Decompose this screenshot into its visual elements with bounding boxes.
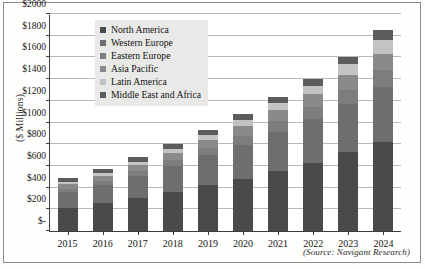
- legend-item[interactable]: North America: [100, 24, 201, 36]
- y-tick-label: $400: [27, 173, 46, 183]
- bar-slot: 2020: [225, 15, 260, 231]
- bar-segment: [233, 126, 253, 136]
- x-tick-label: 2018: [163, 238, 183, 249]
- y-tick-label: $600: [27, 151, 46, 161]
- x-tick-label: 2017: [128, 238, 148, 249]
- bar-segment: [198, 148, 218, 155]
- bar-segment: [268, 121, 288, 131]
- y-tick-label: $1600: [22, 42, 46, 52]
- stacked-bar[interactable]: [93, 169, 113, 231]
- y-tick-label: $200: [27, 194, 46, 204]
- legend-item-label: North America: [111, 24, 169, 35]
- x-tick-mark: [68, 231, 69, 235]
- legend-item[interactable]: Middle East and Africa: [100, 89, 201, 101]
- legend-item[interactable]: Latin America: [100, 76, 201, 88]
- bar-slot: 2021: [261, 15, 296, 231]
- bar-segment: [338, 64, 358, 75]
- bar-segment: [373, 70, 393, 87]
- legend-item-label: Asia Pacific: [111, 63, 158, 74]
- bar-segment: [198, 140, 218, 148]
- bar-segment: [373, 142, 393, 232]
- bar-segment: [58, 208, 78, 231]
- legend-swatch-icon: [100, 40, 106, 46]
- y-tick-label: $1800: [22, 21, 46, 31]
- x-tick-mark: [278, 231, 279, 235]
- gridline: [50, 13, 401, 14]
- stacked-bar[interactable]: [58, 178, 78, 231]
- bar-segment: [303, 94, 323, 107]
- legend-swatch-icon: [100, 66, 106, 72]
- bar-segment: [163, 166, 183, 192]
- legend-item[interactable]: Western Europe: [100, 37, 201, 49]
- legend-item-label: Latin America: [111, 76, 167, 87]
- x-tick-mark: [208, 231, 209, 235]
- x-tick-label: 2019: [198, 238, 218, 249]
- bar-segment: [338, 152, 358, 231]
- source-note: (Source: Navigant Research): [303, 247, 410, 257]
- bar-segment: [233, 136, 253, 145]
- x-tick-label: 2015: [58, 238, 78, 249]
- bar-segment: [338, 104, 358, 152]
- bar-segment: [128, 176, 148, 198]
- y-tick-label: $-: [38, 216, 46, 226]
- legend-item[interactable]: Eastern Europe: [100, 50, 201, 62]
- stacked-bar[interactable]: [373, 30, 393, 231]
- legend-item[interactable]: Asia Pacific: [100, 63, 201, 75]
- y-tick-label: $1000: [22, 108, 46, 118]
- bar-segment: [338, 90, 358, 104]
- x-tick-mark: [243, 231, 244, 235]
- bar-segment: [93, 203, 113, 231]
- legend-swatch-icon: [100, 27, 106, 33]
- bar-slot: 2022: [296, 15, 331, 231]
- bar-segment: [58, 192, 78, 208]
- legend-item-label: Eastern Europe: [111, 50, 170, 61]
- bar-segment: [163, 153, 183, 160]
- y-tick-label: $1400: [22, 64, 46, 74]
- bar-segment: [268, 103, 288, 110]
- stacked-bar[interactable]: [198, 130, 218, 231]
- bar-segment: [373, 54, 393, 71]
- bar-segment: [128, 198, 148, 231]
- y-tick-label: $800: [27, 129, 46, 139]
- bar-segment: [233, 145, 253, 179]
- x-tick-mark: [383, 231, 384, 235]
- stacked-bar[interactable]: [163, 144, 183, 231]
- y-tick-label: $2000: [22, 0, 46, 9]
- bar-segment: [373, 40, 393, 54]
- bar-slot: 2024: [366, 15, 401, 231]
- x-tick-mark: [138, 231, 139, 235]
- bar-segment: [198, 185, 218, 231]
- bar-segment: [268, 171, 288, 231]
- x-tick-mark: [313, 231, 314, 235]
- legend-item-label: Middle East and Africa: [111, 89, 201, 100]
- bar-segment: [338, 75, 358, 90]
- bar-segment: [268, 132, 288, 171]
- figure-frame: ($ Millions) $-$200$400$600$800$1000$120…: [3, 2, 421, 263]
- x-tick-label: 2016: [93, 238, 113, 249]
- bar-slot: 2023: [331, 15, 366, 231]
- stacked-bar[interactable]: [338, 57, 358, 231]
- stacked-bar[interactable]: [128, 157, 148, 231]
- bar-slot: 2015: [50, 15, 85, 231]
- stacked-bar[interactable]: [268, 97, 288, 231]
- x-tick-mark: [103, 231, 104, 235]
- bar-segment: [338, 57, 358, 65]
- stacked-bar-chart-figure: ($ Millions) $-$200$400$600$800$1000$120…: [0, 0, 425, 269]
- x-tick-mark: [173, 231, 174, 235]
- chart-legend: North AmericaWestern EuropeEastern Europ…: [95, 20, 208, 106]
- y-tick-mark: [46, 13, 50, 14]
- legend-item-label: Western Europe: [111, 37, 173, 48]
- bar-segment: [303, 107, 323, 119]
- bar-segment: [163, 192, 183, 231]
- legend-swatch-icon: [100, 79, 106, 85]
- stacked-bar[interactable]: [303, 79, 323, 231]
- legend-swatch-icon: [100, 92, 106, 98]
- bar-segment: [198, 155, 218, 185]
- bar-segment: [303, 86, 323, 95]
- bar-segment: [303, 163, 323, 231]
- bar-segment: [373, 87, 393, 141]
- x-tick-label: 2020: [233, 238, 253, 249]
- stacked-bar[interactable]: [233, 114, 253, 231]
- y-tick-label: $1200: [22, 86, 46, 96]
- bar-segment: [93, 185, 113, 203]
